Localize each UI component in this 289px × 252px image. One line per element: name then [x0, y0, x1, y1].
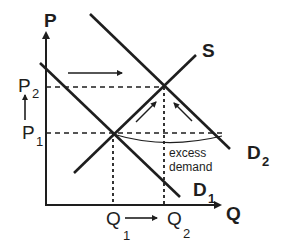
- svg-text:Q: Q: [167, 208, 182, 229]
- svg-text:P: P: [18, 75, 31, 96]
- demand-d1-label: D 1: [193, 179, 215, 206]
- svg-text:2: 2: [183, 226, 190, 241]
- q1-label: Q 1: [106, 208, 130, 243]
- excess-demand-annotation: excess demand: [169, 146, 212, 174]
- svg-text:D: D: [193, 179, 207, 200]
- quantity-axis-label: Q: [226, 203, 241, 224]
- demand-d2-label: D 2: [247, 142, 269, 169]
- demand-curve-d1: [40, 63, 180, 197]
- excess-demand-bracket: [113, 134, 222, 143]
- svg-text:excess: excess: [169, 146, 206, 160]
- svg-text:Q: Q: [106, 208, 121, 229]
- svg-text:D: D: [247, 142, 261, 163]
- p2-label: P 2: [18, 75, 39, 101]
- price-axis-label: P: [44, 10, 57, 31]
- demand-curve-d2: [90, 14, 230, 149]
- q2-label: Q 2: [167, 208, 190, 241]
- svg-text:1: 1: [208, 191, 215, 206]
- svg-text:demand: demand: [169, 160, 212, 174]
- svg-text:P: P: [22, 122, 35, 143]
- price-adjust-arrow: [174, 103, 192, 121]
- supply-curve-label: S: [202, 40, 215, 61]
- svg-text:2: 2: [32, 86, 39, 101]
- svg-text:1: 1: [36, 134, 43, 149]
- supply-demand-diagram: P Q P 2 P 1 Q 1 Q 2 S D 2: [0, 0, 289, 252]
- svg-text:2: 2: [262, 154, 269, 169]
- p1-label: P 1: [22, 122, 43, 149]
- svg-text:1: 1: [123, 228, 130, 243]
